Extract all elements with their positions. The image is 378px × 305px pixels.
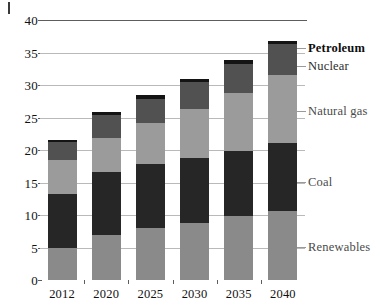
bar-segment-natural-gas[interactable] (136, 123, 165, 163)
bar-segment-petroleum[interactable] (268, 41, 297, 44)
bar-segment-coal[interactable] (180, 158, 209, 222)
legend-leader-line (297, 111, 306, 112)
legend-label-nuclear: Nuclear (308, 60, 349, 73)
y-tick-label: 30 (2, 79, 38, 92)
x-tick-mark (173, 280, 174, 284)
stacked-bar-chart: 0510152025303540 20122020202520302035204… (0, 0, 378, 305)
legend-leader-line (297, 66, 306, 67)
bar-stack-2025[interactable] (136, 20, 165, 280)
bar-stack-2040[interactable] (268, 20, 297, 280)
bar-segment-natural-gas[interactable] (92, 138, 121, 172)
bar-segment-petroleum[interactable] (48, 140, 77, 143)
y-tick-label: 40 (2, 14, 38, 27)
bar-stack-2035[interactable] (224, 20, 253, 280)
bar-segment-nuclear[interactable] (268, 44, 297, 75)
legend-leader-line (297, 247, 306, 248)
bar-segment-coal[interactable] (224, 151, 253, 217)
legend-label-petroleum: Petroleum (308, 42, 365, 55)
x-tick-label-2035: 2035 (214, 288, 264, 301)
gridline (40, 248, 305, 249)
x-tick-label-2040: 2040 (258, 288, 308, 301)
y-tick-label: 20 (2, 144, 38, 157)
gridline (40, 183, 305, 184)
x-tick-mark (217, 280, 218, 284)
y-axis: 0510152025303540 (0, 20, 38, 280)
x-tick-mark (84, 280, 85, 284)
gridline (40, 53, 305, 54)
bar-segment-coal[interactable] (48, 194, 77, 249)
y-tick-label: 0 (2, 274, 38, 287)
gridline (40, 215, 305, 216)
bar-segment-petroleum[interactable] (136, 95, 165, 98)
bar-segment-natural-gas[interactable] (268, 75, 297, 143)
legend-label-natural-gas: Natural gas (308, 105, 367, 118)
gridline (40, 118, 305, 119)
bar-segment-nuclear[interactable] (136, 99, 165, 124)
bar-segment-natural-gas[interactable] (180, 109, 209, 158)
y-tick-label: 35 (2, 47, 38, 60)
bar-segment-nuclear[interactable] (48, 142, 77, 160)
x-tick-label-2012: 2012 (37, 288, 87, 301)
corner-tick-artifact (8, 2, 10, 14)
bar-segment-coal[interactable] (92, 172, 121, 234)
legend-label-coal: Coal (308, 176, 332, 189)
bar-segment-renewables[interactable] (48, 248, 77, 280)
x-tick-mark (261, 280, 262, 284)
y-tick-mark (38, 280, 42, 281)
bar-segment-nuclear[interactable] (180, 82, 209, 109)
bar-stack-2030[interactable] (180, 20, 209, 280)
bar-stack-2012[interactable] (48, 20, 77, 280)
x-tick-mark (128, 280, 129, 284)
x-tick-label-2025: 2025 (125, 288, 175, 301)
legend-leader-line (297, 48, 306, 49)
legend-leader-line (297, 182, 306, 183)
gridline (40, 85, 305, 86)
bar-segment-natural-gas[interactable] (224, 93, 253, 151)
bar-segment-nuclear[interactable] (92, 115, 121, 138)
bar-segment-renewables[interactable] (136, 228, 165, 280)
y-tick-label: 5 (2, 242, 38, 255)
gridline (40, 150, 305, 151)
x-tick-label-2020: 2020 (81, 288, 131, 301)
bar-segment-nuclear[interactable] (224, 64, 253, 93)
bar-segment-petroleum[interactable] (92, 112, 121, 115)
x-axis-line (40, 20, 307, 21)
bar-segment-renewables[interactable] (92, 235, 121, 281)
bar-segment-renewables[interactable] (180, 223, 209, 280)
bar-stack-2020[interactable] (92, 20, 121, 280)
plot-area (40, 20, 305, 280)
y-tick-label: 25 (2, 112, 38, 125)
y-tick-label: 15 (2, 177, 38, 190)
y-tick-label: 10 (2, 209, 38, 222)
bar-segment-natural-gas[interactable] (48, 160, 77, 193)
bar-segment-coal[interactable] (136, 164, 165, 228)
bar-segment-petroleum[interactable] (180, 79, 209, 82)
legend-label-renewables: Renewables (308, 241, 370, 254)
bar-segment-renewables[interactable] (224, 216, 253, 280)
bar-segment-renewables[interactable] (268, 211, 297, 280)
bar-segment-petroleum[interactable] (224, 60, 253, 63)
x-tick-label-2030: 2030 (170, 288, 220, 301)
bar-segment-coal[interactable] (268, 143, 297, 211)
